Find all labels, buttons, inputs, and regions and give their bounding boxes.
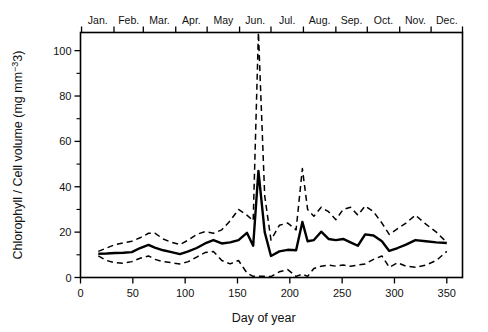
chart-canvas: Jan.Feb.Mar.Apr.MayJun.Jul.Aug.Sep.Oct.N… — [0, 0, 488, 332]
plot-frame — [81, 33, 463, 278]
x-tick-label-50: 50 — [127, 287, 139, 299]
y-axis: 020406080100 — [53, 45, 80, 284]
x-axis-title: Day of year — [232, 311, 296, 325]
month-label-may: May — [213, 14, 234, 26]
y-tick-label-80: 80 — [59, 90, 71, 102]
y-tick-label-0: 0 — [65, 272, 71, 284]
month-label-jan: Jan. — [88, 14, 108, 26]
plot-border — [81, 33, 463, 278]
month-label-dec: Dec. — [436, 14, 458, 26]
y-tick-label-60: 60 — [59, 135, 71, 147]
y-tick-label-100: 100 — [53, 45, 71, 57]
chart-figure: Jan.Feb.Mar.Apr.MayJun.Jul.Aug.Sep.Oct.N… — [0, 0, 488, 332]
month-label-jul: Jul. — [279, 14, 295, 26]
x-tick-label-300: 300 — [385, 287, 403, 299]
month-axis: Jan.Feb.Mar.Apr.MayJun.Jul.Aug.Sep.Oct.N… — [82, 14, 463, 33]
month-label-jun: Jun. — [245, 14, 265, 26]
x-tick-label-100: 100 — [176, 287, 194, 299]
x-tick-label-0: 0 — [77, 287, 83, 299]
axis-titles: Day of yearChlorophyll / Cell volume (mg… — [10, 51, 296, 325]
x-tick-label-200: 200 — [281, 287, 299, 299]
month-label-aug: Aug. — [309, 14, 331, 26]
month-label-mar: Mar. — [149, 14, 169, 26]
y-tick-label-20: 20 — [59, 226, 71, 238]
x-tick-label-350: 350 — [438, 287, 456, 299]
month-label-nov: Nov. — [405, 14, 426, 26]
y-axis-title: Chlorophyll / Cell volume (mg mm−33) — [10, 51, 26, 260]
data-series — [98, 33, 447, 277]
x-tick-label-150: 150 — [228, 287, 246, 299]
x-axis: 050100150200250300350 — [77, 278, 456, 299]
y-tick-label-40: 40 — [59, 181, 71, 193]
month-label-sep: Sep. — [341, 14, 363, 26]
month-label-apr: Apr. — [182, 14, 201, 26]
x-tick-label-250: 250 — [333, 287, 351, 299]
series-line-upper-bound — [98, 33, 447, 252]
month-label-feb: Feb. — [118, 14, 139, 26]
month-label-oct: Oct. — [374, 14, 393, 26]
series-line-mean — [98, 171, 447, 256]
